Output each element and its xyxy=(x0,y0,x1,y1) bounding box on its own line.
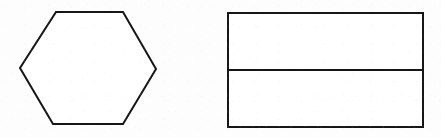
figure-canvas: two-geometric-shapes-line-drawing xyxy=(0,0,441,138)
rectangle-group xyxy=(228,13,423,127)
hexagon-group xyxy=(20,12,156,124)
hexagon-shape xyxy=(20,12,156,124)
geometric-shapes-figure: two-geometric-shapes-line-drawing xyxy=(0,0,441,138)
